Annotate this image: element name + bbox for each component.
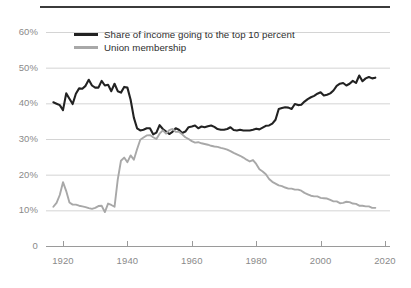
x-tick-label-2000: 2000 xyxy=(301,255,341,266)
legend-item-union-membership: Union membership xyxy=(74,41,354,54)
y-tick-label-60: 60% xyxy=(4,26,38,37)
legend-swatch-income-share xyxy=(74,33,98,37)
gridlines-group xyxy=(46,33,390,247)
legend-swatch-union-membership xyxy=(74,46,98,49)
x-tick-label-1980: 1980 xyxy=(236,255,276,266)
legend-item-income-share: Share of income going to the top 10 perc… xyxy=(74,28,354,41)
series-line-union-membership xyxy=(53,129,375,212)
y-tick-label-20: 20% xyxy=(4,169,38,180)
legend-label-union-membership: Union membership xyxy=(104,42,186,53)
y-tick-label-0: 0 xyxy=(4,240,38,251)
x-tick-label-1940: 1940 xyxy=(107,255,147,266)
chart-legend: Share of income going to the top 10 perc… xyxy=(74,28,354,54)
y-tick-label-10: 10% xyxy=(4,204,38,215)
y-tick-label-40: 40% xyxy=(4,97,38,108)
legend-label-income-share: Share of income going to the top 10 perc… xyxy=(104,29,295,40)
y-tick-label-50: 50% xyxy=(4,62,38,73)
series-line-income-share xyxy=(53,76,375,135)
data-series-group xyxy=(53,76,375,213)
chart-figure: 010%20%30%40%50%60% 19201940196019802000… xyxy=(0,0,411,288)
x-tick-label-2020: 2020 xyxy=(365,255,405,266)
x-tick-label-1960: 1960 xyxy=(172,255,212,266)
y-tick-label-30: 30% xyxy=(4,133,38,144)
x-tick-label-1920: 1920 xyxy=(43,255,83,266)
x-axis-group xyxy=(64,241,386,246)
